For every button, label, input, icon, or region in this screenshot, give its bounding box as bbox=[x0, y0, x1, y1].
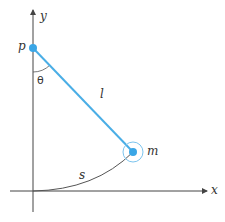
pivot-label: p bbox=[18, 40, 26, 52]
arc-length-label: s bbox=[79, 169, 85, 181]
mass-label: m bbox=[147, 145, 158, 157]
pendulum-diagram bbox=[0, 0, 225, 222]
y-axis-label: y bbox=[40, 10, 47, 22]
mass-bob bbox=[129, 148, 137, 156]
angle-arc bbox=[33, 65, 50, 72]
x-axis-label: x bbox=[211, 184, 218, 196]
pivot-point bbox=[29, 44, 37, 52]
length-label: l bbox=[100, 88, 104, 100]
pendulum-rod bbox=[33, 48, 133, 152]
angle-label: θ bbox=[37, 75, 44, 86]
